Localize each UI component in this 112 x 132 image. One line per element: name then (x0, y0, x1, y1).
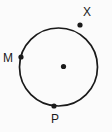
point-marker-m (18, 54, 23, 59)
circle-center-point (61, 64, 66, 69)
circle-diagram-figure: X M P (0, 0, 112, 132)
point-marker-x (77, 22, 82, 27)
point-label-p: P (51, 113, 59, 125)
point-marker-p (51, 103, 56, 108)
point-label-m: M (3, 52, 13, 64)
circle-outline (20, 28, 98, 106)
point-label-x: X (83, 6, 91, 18)
